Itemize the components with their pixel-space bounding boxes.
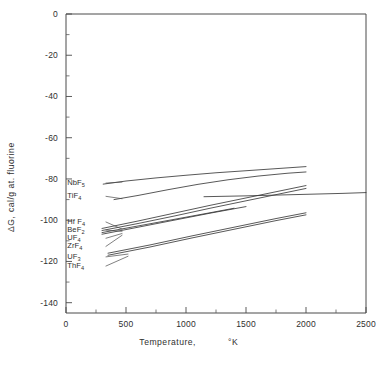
y-tick-label: -120 [40,256,58,266]
free-energy-chart: 0-20-40-60-80-100-120-140 05001000150020… [0,0,388,373]
y-tick-label: -100 [40,215,58,225]
plot-frame [66,14,366,313]
series-label-NbF5: NbF5 [67,178,85,188]
x-tick-label: 1500 [236,319,256,329]
x-axis-ticks [66,307,366,313]
data-curves [102,167,366,256]
y-axis-title-units: cal/g at. fluorine [6,142,16,212]
x-tick-label: 500 [119,319,134,329]
x-axis-title-text: Temperature, [139,337,196,347]
x-tick-label: 1000 [176,319,196,329]
curve-NbF5 [103,167,306,185]
x-axis-unit-text: °K [228,337,238,347]
curve-ZrF4 [102,207,246,235]
x-tick-label: 2500 [356,319,376,329]
x-tick-label: 0 [64,319,69,329]
x-axis-title: Temperature, °K [139,337,238,347]
label-leader [106,196,123,198]
y-tick-label: -80 [45,174,58,184]
curve-HfF4 [102,186,306,229]
y-tick-label: -20 [45,50,58,60]
y-axis-title-delta: ΔG, [6,216,16,232]
y-tick-label: -60 [45,133,58,143]
y-axis-title: ΔG, cal/g at. fluorine [6,142,16,232]
x-tick-label: 2000 [296,319,316,329]
y-axis-tick-labels: 0-20-40-60-80-100-120-140 [40,9,58,308]
chart-svg: 0-20-40-60-80-100-120-140 05001000150020… [0,0,388,373]
axis-top-right-frame [66,14,366,313]
label-leader [106,256,129,266]
y-tick-label: 0 [53,9,58,19]
y-tick-label: -40 [45,91,58,101]
curve-UF3 [108,213,306,253]
label-leader [106,235,123,247]
series-label-TiF4: TiF4 [67,191,81,201]
label-leader [106,233,123,238]
series-labels: NbF5TiF4Hf F4BeF2UF4ZrF4UF3ThF4 [67,178,85,272]
y-tick-label: -140 [40,298,58,308]
series-label-ThF4: ThF4 [67,261,84,271]
x-axis-tick-labels: 05001000150020002500 [64,319,376,329]
